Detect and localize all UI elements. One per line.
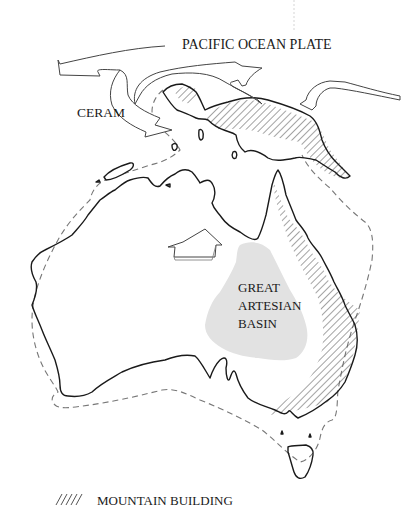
pacific-ocean-plate-label: PACIFIC OCEAN PLATE <box>182 37 332 52</box>
small-island-3 <box>232 151 237 158</box>
timor-island <box>104 163 133 180</box>
mountain-building-legend-swatch <box>56 494 82 505</box>
tasmania-coastline <box>288 445 313 478</box>
bass-strait-island-1 <box>281 431 283 434</box>
bass-strait-island-2 <box>309 434 311 437</box>
small-island-4 <box>96 180 100 182</box>
basin-label-line2: ARTESIAN <box>238 298 302 313</box>
mountain-building-legend-label: MOUNTAIN BUILDING <box>97 493 233 508</box>
australia-tectonic-map: PACIFIC OCEAN PLATE CERAM GREAT ARTESIAN… <box>0 0 420 531</box>
mountain-building-new-guinea <box>205 100 348 178</box>
small-island-1 <box>172 144 177 151</box>
basin-label-line3: BASIN <box>238 316 278 331</box>
basin-label-line1: GREAT <box>238 280 280 295</box>
legend: MOUNTAIN BUILDING <box>56 493 233 508</box>
small-island-2 <box>199 129 203 139</box>
small-island-5 <box>166 184 170 187</box>
pacific-plate-arrow-east <box>300 81 400 110</box>
ceram-label: CERAM <box>77 105 125 120</box>
pacific-plate-arrow-west <box>58 46 172 137</box>
